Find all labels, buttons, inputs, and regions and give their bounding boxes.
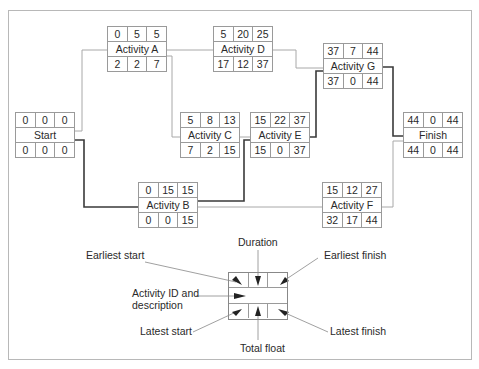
legend-cell-lf xyxy=(268,304,287,318)
latest-start: 0 xyxy=(16,143,36,157)
earliest-start: 0 xyxy=(16,113,36,127)
latest-finish: 37 xyxy=(290,143,309,157)
latest-finish: 44 xyxy=(362,213,381,227)
earliest-finish: 44 xyxy=(443,113,462,127)
total-float: 2 xyxy=(201,143,221,157)
total-float: 2 xyxy=(128,57,148,71)
earliest-start: 15 xyxy=(251,113,271,127)
node-start: 0 0 0 Start 0 0 0 xyxy=(15,112,75,158)
legend-cell-es xyxy=(229,273,249,287)
duration: 15 xyxy=(159,183,179,197)
earliest-start: 5 xyxy=(214,27,234,41)
activity-label: Start xyxy=(16,128,74,142)
legend-node xyxy=(228,272,288,320)
link-f-finish xyxy=(382,141,403,207)
latest-finish: 37 xyxy=(253,57,272,71)
legend-latest-finish: Latest finish xyxy=(330,325,386,337)
legend-activity-id-line1: Activity ID and xyxy=(132,287,199,299)
legend-cell-label xyxy=(229,288,287,303)
latest-start: 2 xyxy=(108,57,128,71)
earliest-finish: 0 xyxy=(55,113,74,127)
link-g-finish xyxy=(383,67,403,136)
link-d-g xyxy=(273,50,323,68)
earliest-start: 44 xyxy=(404,113,424,127)
legend-cell-ef xyxy=(268,273,287,287)
node-activity-f: 15 12 27 Activity F 32 17 44 xyxy=(322,182,382,228)
latest-finish: 44 xyxy=(363,74,382,88)
total-float: 12 xyxy=(234,57,254,71)
link-start-b xyxy=(75,140,138,207)
legend-cell-ls xyxy=(229,304,249,318)
node-activity-b: 0 15 15 Activity B 0 0 15 xyxy=(138,182,198,228)
activity-label: Activity D xyxy=(214,42,272,56)
latest-start: 32 xyxy=(323,213,343,227)
link-start-a xyxy=(75,50,107,131)
node-activity-e: 15 22 37 Activity E 15 0 37 xyxy=(250,112,310,158)
duration: 12 xyxy=(343,183,363,197)
duration: 8 xyxy=(201,113,221,127)
node-activity-a: 0 5 5 Activity A 2 2 7 xyxy=(107,26,167,72)
total-float: 0 xyxy=(159,213,179,227)
legend-latest-start: Latest start xyxy=(140,325,192,337)
earliest-start: 15 xyxy=(323,183,343,197)
duration: 20 xyxy=(234,27,254,41)
link-e-g xyxy=(310,71,323,137)
earliest-finish: 44 xyxy=(363,44,382,58)
earliest-start: 5 xyxy=(181,113,201,127)
latest-finish: 7 xyxy=(147,57,166,71)
earliest-start: 0 xyxy=(139,183,159,197)
legend-activity-id-line2: description xyxy=(132,299,183,311)
activity-label: Activity E xyxy=(251,128,309,142)
latest-start: 7 xyxy=(181,143,201,157)
activity-label: Activity B xyxy=(139,198,197,212)
latest-finish: 15 xyxy=(220,143,239,157)
link-a-c xyxy=(167,56,180,137)
node-activity-c: 5 8 13 Activity C 7 2 15 xyxy=(180,112,240,158)
latest-finish: 15 xyxy=(178,213,197,227)
duration: 5 xyxy=(128,27,148,41)
legend-cell-dur xyxy=(249,273,269,287)
earliest-finish: 27 xyxy=(362,183,381,197)
latest-start: 44 xyxy=(404,143,424,157)
latest-start: 15 xyxy=(251,143,271,157)
latest-finish: 0 xyxy=(55,143,74,157)
activity-label: Activity F xyxy=(323,198,381,212)
total-float: 17 xyxy=(343,213,363,227)
earliest-finish: 5 xyxy=(147,27,166,41)
earliest-finish: 13 xyxy=(220,113,239,127)
legend-cell-tf xyxy=(249,304,269,318)
total-float: 0 xyxy=(344,74,364,88)
duration: 22 xyxy=(271,113,291,127)
duration: 7 xyxy=(344,44,364,58)
earliest-finish: 25 xyxy=(253,27,272,41)
legend-earliest-start: Earliest start xyxy=(86,249,144,261)
legend-total-float: Total float xyxy=(240,342,285,354)
duration: 0 xyxy=(36,113,56,127)
earliest-finish: 15 xyxy=(178,183,197,197)
latest-start: 0 xyxy=(139,213,159,227)
activity-label: Activity C xyxy=(181,128,239,142)
earliest-finish: 37 xyxy=(290,113,309,127)
activity-label: Activity G xyxy=(324,59,382,73)
legend-earliest-finish: Earliest finish xyxy=(324,249,386,261)
activity-label: Finish xyxy=(404,128,462,142)
node-activity-d: 5 20 25 Activity D 17 12 37 xyxy=(213,26,273,72)
total-float: 0 xyxy=(424,143,444,157)
latest-start: 37 xyxy=(324,74,344,88)
node-finish: 44 0 44 Finish 44 0 44 xyxy=(403,112,463,158)
earliest-start: 0 xyxy=(108,27,128,41)
duration: 0 xyxy=(424,113,444,127)
total-float: 0 xyxy=(271,143,291,157)
legend-duration: Duration xyxy=(238,236,278,248)
node-activity-g: 37 7 44 Activity G 37 0 44 xyxy=(323,43,383,89)
latest-start: 17 xyxy=(214,57,234,71)
earliest-start: 37 xyxy=(324,44,344,58)
total-float: 0 xyxy=(36,143,56,157)
activity-label: Activity A xyxy=(108,42,166,56)
latest-finish: 44 xyxy=(443,143,462,157)
